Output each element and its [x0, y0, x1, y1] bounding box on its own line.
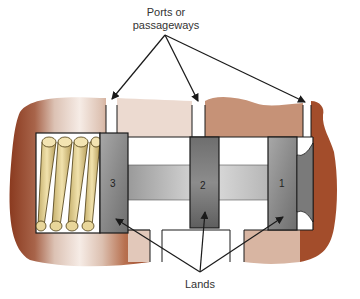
- ports-label-line2: passageways: [128, 19, 204, 32]
- land-1-number: 1: [279, 178, 285, 189]
- ports-arrows: [112, 35, 305, 102]
- ports-label-line1: Ports or: [128, 6, 204, 19]
- diagram-graphic: [0, 0, 360, 299]
- ports-label: Ports or passageways: [128, 6, 204, 32]
- land-3-number: 3: [110, 178, 116, 189]
- land-2-number: 2: [200, 180, 206, 191]
- spool-valve-diagram: Ports or passageways Lands 3 2 1: [0, 0, 360, 299]
- lands-label: Lands: [180, 278, 220, 291]
